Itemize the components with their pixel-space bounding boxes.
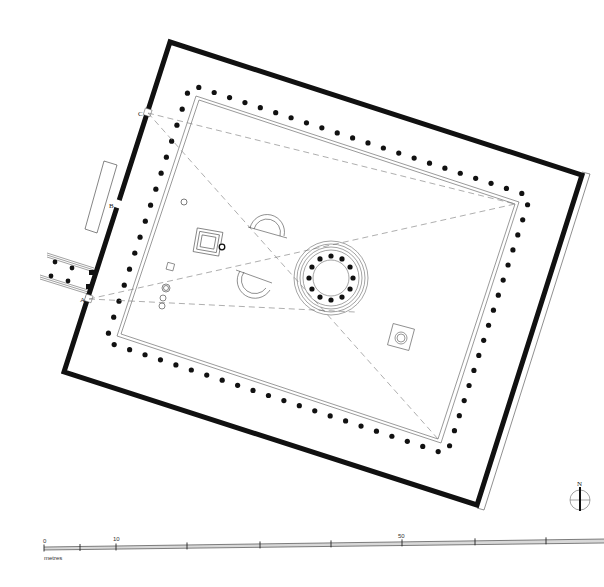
scale-label-50: 50 [398,533,405,539]
entrance-columns [49,260,95,289]
scale-label-0: 0 [43,538,47,544]
scale-bar: 0 10 50 metres [43,533,604,561]
exedra-north [248,215,287,238]
north-arrow-icon: N [570,480,590,511]
square-altar [388,324,415,351]
tholos [294,241,368,315]
survey-label-b: B [109,202,114,210]
sight-lines [89,113,515,439]
votive-bases [159,284,170,309]
scale-label-10: 10 [113,536,120,542]
tholos-columns [306,253,355,302]
exedra-south [236,270,272,298]
entrance-propylon [40,253,94,294]
survey-label-a: A [80,296,85,304]
stepped-altar [193,228,223,256]
north-label: N [577,480,582,488]
site-plan: A B C N 0 10 50 metres [0,0,604,587]
scale-unit: metres [44,555,62,561]
small-altar [181,199,187,205]
small-base [166,262,175,271]
colonnade-stylobate [117,96,519,443]
survey-label-c: C [138,110,143,118]
